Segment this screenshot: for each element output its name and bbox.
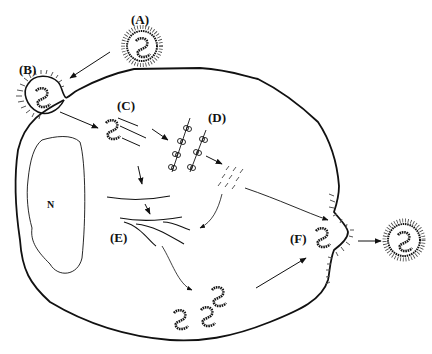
label-nucleus: N [47,200,54,210]
released-virion [385,221,424,260]
entry-invagination [16,70,66,119]
stage-c-nucleocapsid [106,118,146,146]
label-f: (F) [290,232,307,245]
virion-a [123,27,161,65]
label-b: (B) [19,63,36,76]
label-e: (E) [110,231,127,244]
stage-d-polysomes [169,118,208,172]
label-c: (C) [117,99,135,112]
label-d: (D) [208,111,226,124]
protein-dashes [218,166,243,189]
progeny-nucleocapsids [174,287,226,329]
cell-membrane [16,68,348,340]
virus-cycle-diagram [0,0,432,354]
label-a: (A) [131,13,149,26]
nucleus [27,137,85,274]
